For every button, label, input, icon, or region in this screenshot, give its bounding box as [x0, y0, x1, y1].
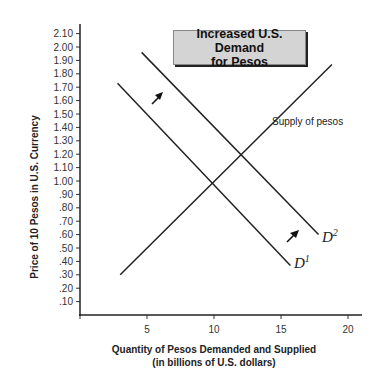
x-tick-label: 5 [144, 324, 150, 335]
y-tick-label: 1.80 [54, 68, 74, 79]
chart-title-box: Increased U.S. Demand for Pesos [173, 30, 306, 65]
chart-title-line2: for Pesos [174, 55, 305, 69]
y-tick-label: .90 [59, 189, 73, 200]
x-tick-label: 20 [342, 324, 354, 335]
x-axis-title: Quantity of Pesos Demanded and Supplied [112, 344, 316, 355]
x-tick-label: 10 [208, 324, 220, 335]
shift-arrow-lower [287, 230, 299, 242]
y-tick-label: .60 [59, 229, 73, 240]
y-tick-label: .30 [59, 269, 73, 280]
y-tick-label: .70 [59, 216, 73, 227]
y-tick-label: .40 [59, 256, 73, 267]
y-tick-label: .20 [59, 283, 73, 294]
chart-title-line1: Increased U.S. Demand [174, 27, 305, 55]
x-axis-subtitle: (in billions of U.S. dollars) [152, 357, 275, 368]
curve-supply-of-pesos [120, 64, 332, 274]
d1-label-main: D [293, 255, 305, 271]
curve-d1 [118, 83, 291, 265]
y-tick-label: 1.40 [54, 122, 74, 133]
x-axis-ticks: 5101520 [80, 315, 354, 335]
y-tick-label: 1.70 [54, 82, 74, 93]
y-tick-label: .10 [59, 296, 73, 307]
d2-label-main: D [321, 229, 333, 245]
y-axis-title: Price of 10 Pesos in U.S. Currency [29, 115, 40, 279]
d1-label: D1 [293, 253, 310, 271]
y-tick-label: 1.30 [54, 135, 74, 146]
d2-label: D2 [321, 227, 338, 245]
y-tick-label: 2.00 [54, 42, 74, 53]
d1-label-sup: 1 [305, 253, 310, 264]
d2-label-sup: 2 [333, 227, 338, 238]
y-axis-ticks: .10.20.30.40.50.60.70.80.901.001.101.201… [54, 28, 80, 307]
curve-d2 [142, 52, 319, 234]
y-tick-label: .50 [59, 243, 73, 254]
y-tick-label: .80 [59, 202, 73, 213]
y-tick-label: 1.20 [54, 149, 74, 160]
y-tick-label: 1.90 [54, 55, 74, 66]
y-tick-label: 2.10 [54, 28, 74, 39]
y-tick-label: 1.60 [54, 95, 74, 106]
y-tick-label: 1.10 [54, 162, 74, 173]
x-tick-label: 15 [275, 324, 287, 335]
y-tick-label: 1.00 [54, 176, 74, 187]
supply-label: Supply of pesos [272, 116, 343, 127]
shift-arrow-upper [152, 92, 163, 104]
y-tick-label: 1.50 [54, 109, 74, 120]
curves [118, 52, 332, 274]
